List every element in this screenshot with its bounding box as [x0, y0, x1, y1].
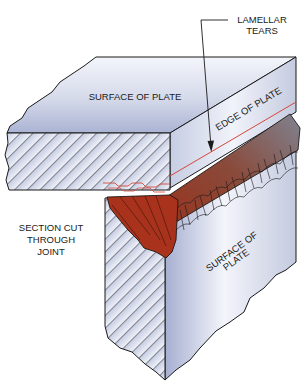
label-lamellar-tears-2: TEARS — [246, 25, 278, 36]
label-lamellar-tears-1: LAMELLAR — [237, 14, 287, 25]
label-section-3: JOINT — [37, 246, 65, 257]
top-plate-section — [5, 133, 170, 190]
label-surface-of-plate-top: SURFACE OF PLATE — [89, 91, 182, 102]
label-section-1: SECTION CUT — [19, 222, 84, 233]
lamellar-tear-diagram: LAMELLAR TEARS SURFACE OF PLATE EDGE OF … — [0, 0, 306, 386]
label-section-2: THROUGH — [27, 234, 75, 245]
